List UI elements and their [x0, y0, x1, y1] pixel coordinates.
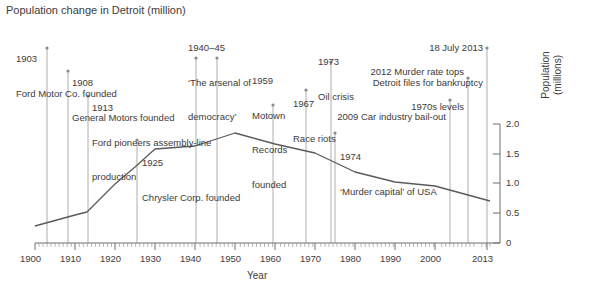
- annotation-1925-text: Chrysler Corp. founded: [142, 192, 240, 204]
- x-tick-label-1970: 1970: [300, 253, 321, 264]
- x-axis-major-ticks: [35, 243, 487, 250]
- x-tick-label-1940: 1940: [180, 253, 201, 264]
- annotation-1959-text-line3: founded: [252, 179, 287, 191]
- annotation-1940-45-text-line2: democracy’: [188, 111, 251, 123]
- chart-page: Population change in Detroit (million): [0, 0, 593, 294]
- x-axis-minor-ticks: [39, 243, 490, 247]
- y-tick-label-1.0: 1.0: [506, 177, 519, 188]
- y-tick-label-0: 0: [506, 237, 511, 248]
- x-axis-title: Year: [247, 270, 267, 281]
- x-tick-label-1980: 1980: [340, 253, 361, 264]
- annotation-1959-year: 1959: [252, 75, 287, 87]
- annotation-1940-45-text-line1: ‘The arsenal of: [188, 77, 251, 89]
- annotation-2013: 18 July 2013 Detroit files for bankruptc…: [300, 19, 483, 111]
- x-tick-label-1930: 1930: [140, 253, 161, 264]
- y-tick-label-1.5: 1.5: [506, 148, 519, 159]
- y-axis-title-line1: Population: [540, 20, 552, 130]
- annotation-1974-year: 1974: [340, 151, 437, 163]
- x-tick-label-1920: 1920: [100, 253, 121, 264]
- x-tick-label-1950: 1950: [220, 253, 241, 264]
- annotation-1940-45: 1940–45 ‘The arsenal of democracy’: [188, 19, 251, 146]
- annotation-2013-year: 18 July 2013: [300, 42, 483, 54]
- y-tick-label-0.5: 0.5: [506, 207, 519, 218]
- marker-dot-2013: [485, 46, 488, 49]
- annotation-1974-text: ‘Murder capital’ of USA: [340, 186, 437, 198]
- x-tick-label-2000: 2000: [420, 253, 441, 264]
- x-tick-label-2013: 2013: [472, 253, 493, 264]
- x-tick-label-1900: 1900: [20, 253, 41, 264]
- x-tick-label-1990: 1990: [380, 253, 401, 264]
- y-tick-label-2.0: 2.0: [506, 118, 519, 129]
- annotation-1925-year: 1925: [142, 157, 240, 169]
- annotation-2013-text: Detroit files for bankruptcy: [300, 77, 483, 89]
- annotation-1959-text-line2: Records: [252, 144, 287, 156]
- annotation-1925: 1925 Chrysler Corp. founded: [142, 134, 240, 226]
- annotation-1940-45-year: 1940–45: [188, 42, 251, 54]
- x-tick-label-1960: 1960: [260, 253, 281, 264]
- y-axis-ticks: [493, 124, 500, 243]
- y-axis-title-line2: (millions): [552, 20, 564, 130]
- y-axis-title: Population (millions): [540, 20, 563, 130]
- x-tick-label-1910: 1910: [60, 253, 81, 264]
